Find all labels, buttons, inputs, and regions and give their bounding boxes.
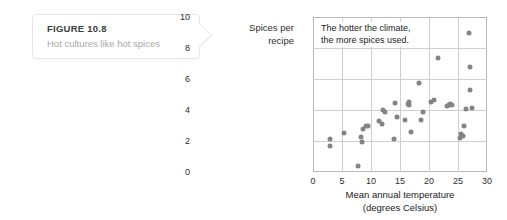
gridline-horizontal (313, 79, 487, 80)
data-point (391, 136, 396, 141)
y-tick-label: 0 (160, 167, 190, 177)
gridline-vertical (429, 17, 430, 172)
data-point (462, 123, 467, 128)
data-point (380, 121, 385, 126)
x-axis-title: Mean annual temperature (degrees Celsius… (300, 189, 500, 214)
y-tick-label: 8 (160, 43, 190, 53)
data-point (356, 163, 361, 168)
data-point (421, 110, 426, 115)
x-tick-label: 20 (417, 176, 441, 186)
data-point (342, 131, 347, 136)
y-axis-title-line1: Spices per (222, 22, 294, 35)
y-tick-label: 6 (160, 74, 190, 84)
data-point (460, 133, 465, 138)
data-point (327, 137, 332, 142)
gridline-horizontal (313, 141, 487, 142)
figure-label: FIGURE 10.8 (47, 22, 199, 35)
plot-annotation: The hotter the climate, the more spices … (320, 22, 414, 47)
gridline-horizontal (313, 110, 487, 111)
x-axis-title-line1: Mean annual temperature (300, 189, 500, 202)
x-tick-label: 15 (388, 176, 412, 186)
data-point (409, 129, 414, 134)
y-tick-label: 10 (160, 12, 190, 22)
callout-pointer-icon (199, 24, 211, 46)
y-axis-title-line2: recipe (222, 35, 294, 48)
data-point (467, 30, 472, 35)
data-point (417, 80, 422, 85)
data-point (393, 101, 398, 106)
data-point (418, 118, 423, 123)
data-point (403, 118, 408, 123)
data-point (435, 56, 440, 61)
x-tick-label: 10 (359, 176, 383, 186)
data-point (327, 144, 332, 149)
data-point (467, 65, 472, 70)
y-tick-label: 2 (160, 136, 190, 146)
y-axis-title: Spices per recipe (222, 22, 294, 47)
data-point (366, 124, 371, 129)
x-tick-label: 0 (301, 176, 325, 186)
y-tick-label: 4 (160, 105, 190, 115)
gridline-vertical (458, 17, 459, 172)
x-tick-label: 5 (330, 176, 354, 186)
data-point (469, 106, 474, 111)
data-point (395, 114, 400, 119)
x-tick-label: 25 (446, 176, 470, 186)
data-point (464, 107, 469, 112)
data-point (382, 109, 387, 114)
plot-annotation-line2: the more spices used. (321, 35, 411, 47)
x-axis-title-line2: (degrees Celsius) (300, 202, 500, 215)
x-tick-label: 30 (475, 176, 499, 186)
data-point (359, 139, 364, 144)
data-point (407, 103, 412, 108)
scatter-plot: The hotter the climate, the more spices … (313, 17, 487, 172)
data-point (450, 102, 455, 107)
gridline-horizontal (313, 48, 487, 49)
data-point (432, 97, 437, 102)
plot-annotation-line1: The hotter the climate, (321, 23, 411, 35)
data-point (468, 87, 473, 92)
